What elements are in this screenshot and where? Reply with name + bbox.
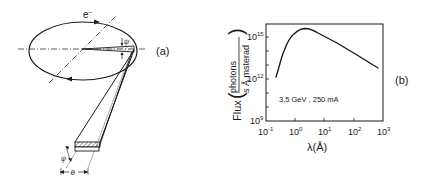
orbit-arrow-bottom-icon — [66, 77, 72, 82]
electron-label: e− — [83, 9, 93, 20]
small-angle-symbol: ψ — [124, 38, 129, 46]
x-tick-label-1e0: 100 — [289, 126, 303, 137]
x-tick-label-1e2: 102 — [348, 126, 362, 137]
beam-edge-left — [75, 50, 134, 142]
x-tick-label-1e3: 103 — [377, 126, 391, 137]
beam-edge-right-inner — [98, 52, 132, 150]
flux-curve — [276, 29, 378, 78]
y-axis-label-paren-close: ) — [225, 28, 247, 35]
y-tick-label-1e15: 1015 — [247, 31, 264, 42]
x-tick-label-1e-1: 10-1 — [258, 126, 274, 137]
y-axis-label-prefix: Flux — [231, 100, 243, 121]
angle-arrow-up-icon — [121, 52, 124, 55]
y-axis-label-numerator: photons — [228, 60, 238, 93]
beam-cross-section — [75, 142, 100, 147]
theta-arrow-right-icon — [84, 170, 88, 174]
figure-canvas: e− ψ ψ θ (a) — [0, 0, 427, 182]
vertical-angle-symbol: ψ — [61, 155, 66, 163]
y-axis-label: Flux ( photons s Å msterad ) — [225, 28, 251, 121]
panel-b-chart: 1015 1012 109 10-1 100 101 102 103 λ(Å) … — [225, 24, 408, 153]
y-axis-label-denominator: s Å msterad — [241, 45, 251, 93]
beam-cross-section-lower — [75, 147, 99, 151]
x-axis-label: λ(Å) — [307, 141, 327, 153]
y-tick-label-1e9: 109 — [250, 115, 264, 126]
panel-a-label: (a) — [156, 45, 169, 57]
panel-a-diagram: e− ψ ψ θ (a) — [18, 9, 169, 177]
plot-frame — [266, 24, 383, 121]
beam-parameters-annotation: 3,5 GeV , 250 mA — [279, 95, 339, 104]
x-tick-label-1e1: 101 — [318, 126, 332, 137]
theta-arrow-left-icon — [60, 170, 64, 174]
panel-b-label: (b) — [395, 74, 408, 86]
horizontal-angle-symbol: θ — [71, 168, 76, 177]
